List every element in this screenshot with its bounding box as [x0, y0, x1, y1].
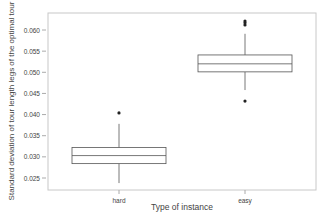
- y-axis: 0.0250.0300.0350.0400.0450.0500.0550.060: [24, 27, 46, 182]
- y-tick-label: 0.060: [24, 27, 41, 34]
- y-tick-label: 0.025: [24, 175, 41, 182]
- y-axis-label: Standard deviation of tour length legs o…: [7, 1, 16, 200]
- iqr-box: [198, 55, 292, 72]
- y-tick-label: 0.040: [24, 111, 41, 118]
- y-tick-label: 0.030: [24, 153, 41, 160]
- x-tick-label-easy: easy: [238, 197, 252, 205]
- outlier-point: [243, 99, 246, 102]
- x-tick-label-hard: hard: [112, 197, 125, 204]
- y-tick-label: 0.045: [24, 90, 41, 97]
- x-axis-label: Type of instance: [151, 202, 213, 212]
- y-tick-label: 0.055: [24, 48, 41, 55]
- y-tick-label: 0.050: [24, 69, 41, 76]
- boxplot-chart: 0.0250.0300.0350.0400.0450.0500.0550.060…: [0, 0, 332, 221]
- box-easy: [198, 20, 292, 103]
- outlier-point: [117, 111, 120, 114]
- y-tick-label: 0.035: [24, 132, 41, 139]
- boxes: [72, 20, 292, 184]
- outlier-point: [243, 20, 246, 23]
- box-hard: [72, 111, 166, 183]
